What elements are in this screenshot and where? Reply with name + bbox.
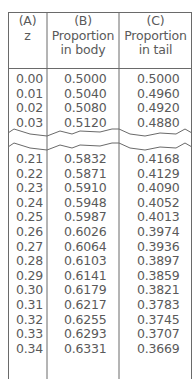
table-row: 0.25 0.5987 0.4013	[0, 210, 195, 225]
table-row: 0.03 0.5120 0.4880	[0, 116, 195, 131]
cell-body: 0.6064	[64, 240, 107, 255]
header-body-sub2: in body	[47, 43, 119, 58]
cell-z: 0.27	[16, 240, 43, 255]
cell-tail: 0.3936	[137, 240, 180, 255]
cell-body: 0.6141	[64, 269, 107, 284]
cell-body: 0.6293	[64, 327, 107, 342]
cell-tail: 0.3974	[137, 225, 180, 240]
break-line-lower	[8, 143, 192, 150]
table-row: 0.22 0.5871 0.4129	[0, 167, 195, 182]
header-z-label: (A)	[8, 14, 47, 29]
header-proportion-body: (B) Proportion in body	[47, 14, 119, 68]
cell-tail: 0.4880	[137, 116, 180, 131]
cell-body: 0.5040	[64, 87, 107, 102]
cell-body: 0.5871	[64, 167, 107, 182]
table-row: 0.21 0.5832 0.4168	[0, 152, 195, 167]
cell-z: 0.34	[16, 342, 43, 357]
cell-z: 0.01	[16, 87, 43, 102]
table-row: 0.24 0.5948 0.4052	[0, 196, 195, 211]
cell-z: 0.23	[16, 181, 43, 196]
cell-tail: 0.4960	[137, 87, 180, 102]
header-z: (A) z	[8, 14, 47, 68]
cell-z: 0.31	[16, 298, 43, 313]
cell-tail: 0.3859	[137, 269, 180, 284]
cell-tail: 0.4090	[137, 181, 180, 196]
z-table: (A) z (B) Proportion in body (C) Proport…	[0, 0, 195, 379]
header-proportion-tail: (C) Proportion in tail	[119, 14, 192, 68]
cell-body: 0.5987	[64, 210, 107, 225]
cell-body: 0.6255	[64, 313, 107, 328]
table-row: 0.32 0.6255 0.3745	[0, 313, 195, 328]
table-row: 0.29 0.6141 0.3859	[0, 269, 195, 284]
header-body-sub1: Proportion	[47, 29, 119, 44]
header-body-label: (B)	[47, 14, 119, 29]
cell-z: 0.24	[16, 196, 43, 211]
table-row: 0.28 0.6103 0.3897	[0, 254, 195, 269]
table-row: 0.34 0.6331 0.3669	[0, 342, 195, 357]
cell-tail: 0.3745	[137, 313, 180, 328]
cell-body: 0.6217	[64, 298, 107, 313]
cell-tail: 0.3821	[137, 283, 180, 298]
table-row: 0.23 0.5910 0.4090	[0, 181, 195, 196]
cell-body: 0.5120	[64, 116, 107, 131]
cell-tail: 0.3897	[137, 254, 180, 269]
cell-tail: 0.4013	[137, 210, 180, 225]
table-row: 0.00 0.5000 0.5000	[0, 72, 195, 87]
table-row: 0.02 0.5080 0.4920	[0, 101, 195, 116]
header-tail-sub2: in tail	[119, 43, 192, 58]
cell-z: 0.28	[16, 254, 43, 269]
cell-body: 0.5832	[64, 152, 107, 167]
break-line-upper	[8, 129, 192, 136]
cell-z: 0.32	[16, 313, 43, 328]
header-tail-label: (C)	[119, 14, 192, 29]
table-row: 0.31 0.6217 0.3783	[0, 298, 195, 313]
cell-tail: 0.4052	[137, 196, 180, 211]
cell-tail: 0.5000	[137, 72, 180, 87]
cell-tail: 0.3707	[137, 327, 180, 342]
cell-tail: 0.3669	[137, 342, 180, 357]
cell-z: 0.30	[16, 283, 43, 298]
cell-tail: 0.4129	[137, 167, 180, 182]
cell-body: 0.5080	[64, 101, 107, 116]
cell-z: 0.21	[16, 152, 43, 167]
cell-z: 0.00	[16, 72, 43, 87]
cell-z: 0.22	[16, 167, 43, 182]
cell-body: 0.6179	[64, 283, 107, 298]
cell-z: 0.25	[16, 210, 43, 225]
header-tail-sub1: Proportion	[119, 29, 192, 44]
cell-body: 0.5910	[64, 181, 107, 196]
cell-body: 0.6026	[64, 225, 107, 240]
cell-z: 0.02	[16, 101, 43, 116]
table-row: 0.01 0.5040 0.4960	[0, 87, 195, 102]
header-z-sub: z	[8, 29, 47, 44]
table-row: 0.27 0.6064 0.3936	[0, 240, 195, 255]
table-row: 0.33 0.6293 0.3707	[0, 327, 195, 342]
cell-body: 0.5000	[64, 72, 107, 87]
table-row: 0.30 0.6179 0.3821	[0, 283, 195, 298]
cell-z: 0.33	[16, 327, 43, 342]
cell-tail: 0.3783	[137, 298, 180, 313]
cell-z: 0.29	[16, 269, 43, 284]
cell-tail: 0.4920	[137, 101, 180, 116]
cell-body: 0.5948	[64, 196, 107, 211]
cell-body: 0.6103	[64, 254, 107, 269]
cell-tail: 0.4168	[137, 152, 180, 167]
table-row: 0.26 0.6026 0.3974	[0, 225, 195, 240]
cell-z: 0.03	[16, 116, 43, 131]
cell-z: 0.26	[16, 225, 43, 240]
cell-body: 0.6331	[64, 342, 107, 357]
